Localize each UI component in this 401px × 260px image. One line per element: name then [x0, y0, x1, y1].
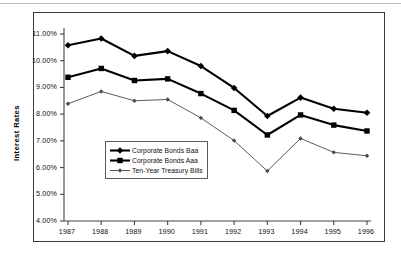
y-tick-label: 11.00% [0, 29, 57, 38]
x-tick-label: 1992 [217, 227, 249, 236]
x-tick-label: 1991 [184, 227, 216, 236]
x-tick-label: 1995 [317, 227, 349, 236]
chart-frame [33, 12, 385, 242]
chart-figure: Interest Rates 4.00%5.00%6.00%7.00%8.00%… [0, 0, 401, 260]
legend-marker-icon [109, 166, 131, 175]
x-tick-label: 1987 [51, 227, 83, 236]
chart-legend: Corporate Bonds BaaCorporate Bonds AaaTe… [105, 141, 208, 179]
legend-item: Corporate Bonds Aaa [109, 155, 203, 165]
y-tick-label: 6.00% [0, 163, 57, 172]
y-tick-label: 8.00% [0, 109, 57, 118]
y-tick-label: 5.00% [0, 189, 57, 198]
legend-marker-icon [109, 146, 131, 155]
plot-area [34, 13, 383, 240]
legend-marker-icon [109, 156, 131, 165]
y-tick-label: 9.00% [0, 82, 57, 91]
x-tick-label: 1990 [151, 227, 183, 236]
top-rule-divider [0, 3, 401, 4]
x-tick-label: 1989 [117, 227, 149, 236]
y-tick-label: 10.00% [0, 56, 57, 65]
series-1 [65, 35, 371, 119]
y-tick-label: 7.00% [0, 136, 57, 145]
x-tick-label: 1993 [250, 227, 282, 236]
y-tick-label: 4.00% [0, 216, 57, 225]
legend-item: Corporate Bonds Baa [109, 145, 203, 155]
legend-item: Ten-Year Treasury Bills [109, 165, 203, 175]
x-tick-label: 1996 [350, 227, 382, 236]
legend-label: Ten-Year Treasury Bills [132, 167, 203, 174]
x-tick-label: 1988 [84, 227, 116, 236]
x-tick-label: 1994 [284, 227, 316, 236]
legend-label: Corporate Bonds Aaa [132, 157, 198, 164]
legend-label: Corporate Bonds Baa [132, 147, 198, 154]
